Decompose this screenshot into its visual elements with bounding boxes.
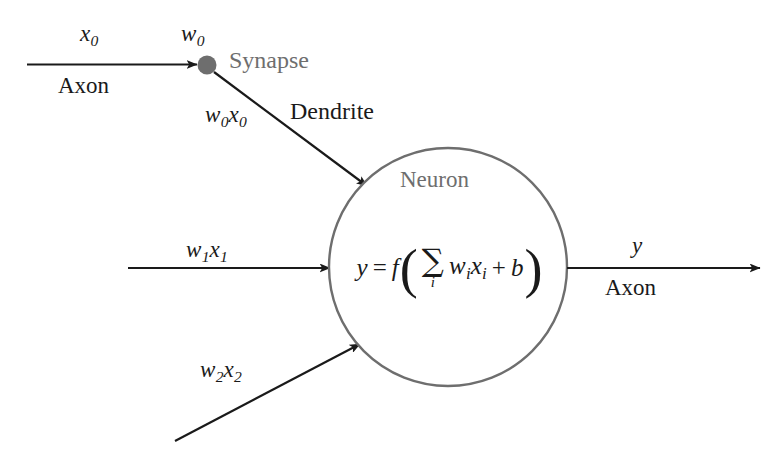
label-weighted-input-2-w: w [200, 357, 215, 382]
label-dendrite: Dendrite [290, 99, 374, 123]
formula-input: xi [471, 252, 487, 284]
formula-summation: ∑ i [422, 246, 444, 291]
formula-activation-fn: f [392, 254, 399, 282]
label-output-y: y [632, 234, 642, 257]
label-weight-w0-base: w [181, 21, 196, 46]
label-weight-w0-sub: 0 [197, 32, 205, 49]
label-weighted-input-1-w: w [186, 237, 201, 262]
label-weight-w0: w0 [181, 22, 204, 49]
label-neuron: Neuron [400, 168, 469, 191]
label-weighted-input-2-xsub: 2 [234, 368, 242, 385]
label-weighted-input-2: w2x2 [200, 358, 242, 385]
sigma-icon: ∑ [422, 246, 444, 275]
formula-plus: + [492, 254, 506, 282]
neuron-diagram: x0 Axon w0 Synapse w0x0 Dendrite Neuron … [0, 0, 782, 459]
label-weighted-input-0-w: w [205, 102, 220, 127]
formula-equals: = [373, 254, 387, 282]
label-axon-output: Axon [605, 276, 656, 299]
formula-bias: b [511, 254, 524, 282]
formula-weight: wi [449, 252, 471, 284]
label-synapse: Synapse [229, 48, 309, 72]
diagram-vector-layer [0, 0, 782, 459]
formula-input-sub: i [482, 264, 487, 283]
label-weighted-input-1-x: x [209, 237, 219, 262]
label-input-x0-base: x [80, 21, 90, 46]
synapse-dot-icon [198, 56, 217, 75]
formula-input-base: x [471, 252, 482, 279]
formula-sigma-index: i [431, 275, 435, 290]
label-weighted-input-0-xsub: 0 [239, 113, 247, 130]
label-weighted-input-0-x: x [228, 102, 238, 127]
label-weighted-input-1-xsub: 1 [220, 248, 228, 265]
label-weighted-input-1: w1x1 [186, 238, 228, 265]
label-weighted-input-2-x: x [223, 357, 233, 382]
formula-weight-base: w [449, 252, 466, 279]
neuron-formula: y = f ( ∑ i wi xi + b ) [345, 238, 555, 298]
label-input-x0-sub: 0 [91, 32, 99, 49]
formula-lhs: y [357, 254, 368, 282]
label-weighted-input-0: w0x0 [205, 103, 247, 130]
label-axon-input: Axon [58, 74, 109, 97]
label-input-x0: x0 [80, 22, 98, 49]
